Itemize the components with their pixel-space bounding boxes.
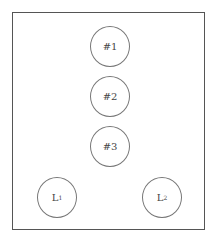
node-3: #3 <box>90 126 130 167</box>
node-l1-sub: 1 <box>58 194 62 201</box>
node-1: #1 <box>90 26 130 67</box>
node-2-label: #2 <box>103 91 118 102</box>
node-l2-label: L <box>157 192 164 203</box>
node-l2: L2 <box>142 177 182 218</box>
node-l1: L1 <box>37 177 77 218</box>
node-3-label: #3 <box>103 141 118 152</box>
node-l1-label: L <box>52 192 59 203</box>
node-l2-sub: 2 <box>163 194 167 201</box>
node-2: #2 <box>90 76 130 117</box>
node-1-label: #1 <box>103 41 118 52</box>
